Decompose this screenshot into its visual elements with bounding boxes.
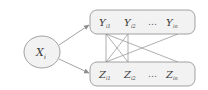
svg-text:i1: i1 — [106, 23, 111, 29]
arrow-to-z-group — [59, 59, 89, 73]
svg-text:i2: i2 — [131, 75, 136, 81]
svg-text:i1: i1 — [106, 75, 111, 81]
z-ellipsis: … — [148, 69, 157, 79]
node-x-subscript: i — [44, 53, 46, 60]
arrow-to-y-group — [59, 25, 89, 45]
y-group: Y i1 Y i2 … Y in — [90, 10, 195, 34]
cross-connections — [106, 34, 178, 62]
svg-text:i2: i2 — [131, 23, 136, 29]
y-ellipsis: … — [148, 17, 157, 27]
svg-text:in: in — [173, 23, 178, 29]
diagram-canvas: X i Y i1 Y i2 … Y in Z i1 — [0, 0, 208, 90]
node-x: X i — [24, 36, 60, 68]
z-group: Z i1 Z i2 … Z in — [90, 62, 195, 86]
source-arrows — [59, 25, 89, 73]
svg-text:in: in — [173, 75, 178, 81]
diagram-svg: X i Y i1 Y i2 … Y in Z i1 — [0, 0, 208, 90]
